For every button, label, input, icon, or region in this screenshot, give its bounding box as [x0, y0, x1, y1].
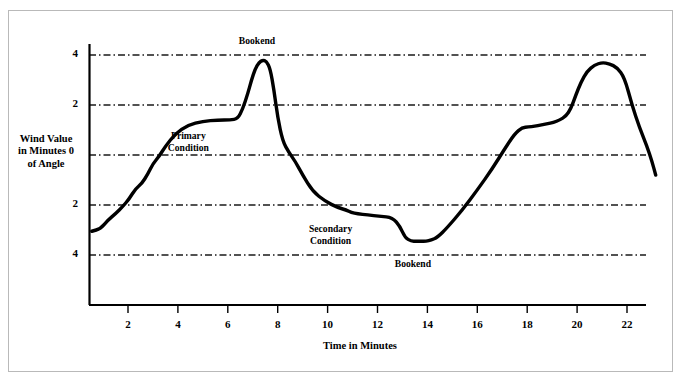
gridlines-group — [89, 55, 646, 255]
x-tick-label-4: 4 — [166, 318, 190, 330]
chart-figure: Wind Valuein Minutes 0of Angle Time in M… — [0, 0, 683, 380]
y-axis-title-line-2: in Minutes 0 — [6, 145, 86, 157]
annotation-line: Condition — [159, 142, 217, 154]
annotation-line: Bookend — [228, 35, 286, 47]
axes-group — [89, 44, 646, 305]
y-tick-label-4: 4 — [56, 247, 78, 259]
y-axis-title-line-3: of Angle — [6, 158, 86, 170]
x-tick-label-20: 20 — [565, 318, 589, 330]
annotation-secondary-condition: SecondaryCondition — [302, 223, 360, 247]
x-tick-label-12: 12 — [366, 318, 390, 330]
x-tick-marks — [128, 305, 627, 313]
y-tick-label-1: 2 — [56, 97, 78, 109]
x-tick-label-6: 6 — [216, 318, 240, 330]
x-tick-label-16: 16 — [465, 318, 489, 330]
annotation-bookend: Bookend — [228, 35, 286, 47]
y-axis-title-line-1: Wind Value — [6, 133, 86, 145]
x-tick-label-18: 18 — [515, 318, 539, 330]
annotation-line: Condition — [302, 235, 360, 247]
y-axis-title: Wind Valuein Minutes 0of Angle — [6, 133, 86, 170]
annotation-line: Primary — [159, 130, 217, 142]
y-tick-label-3: 2 — [56, 197, 78, 209]
x-axis-title: Time in Minutes — [260, 340, 460, 352]
x-tick-label-14: 14 — [415, 318, 439, 330]
x-tick-label-2: 2 — [116, 318, 140, 330]
x-tick-label-22: 22 — [615, 318, 639, 330]
annotation-bookend: Bookend — [384, 258, 442, 270]
y-tick-label-0: 4 — [56, 47, 78, 59]
annotation-primary-condition: PrimaryCondition — [159, 130, 217, 154]
x-tick-label-10: 10 — [316, 318, 340, 330]
annotation-line: Bookend — [384, 258, 442, 270]
x-tick-label-8: 8 — [266, 318, 290, 330]
annotation-line: Secondary — [302, 223, 360, 235]
